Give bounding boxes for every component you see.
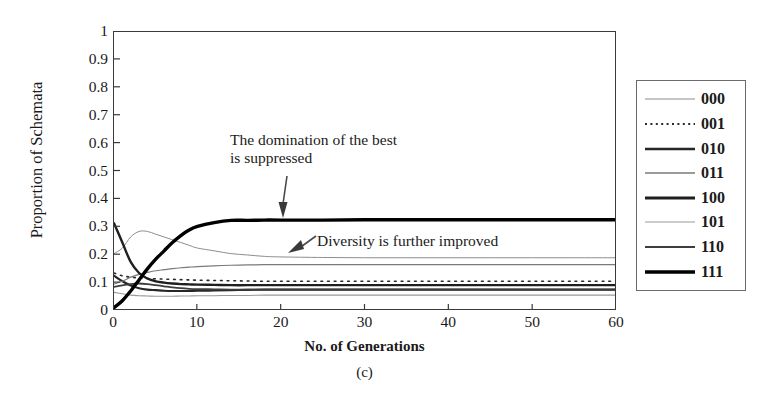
legend-swatch-icon: [644, 240, 696, 254]
legend-item-010[interactable]: 010: [637, 137, 745, 161]
legend-swatch-icon: [644, 265, 696, 279]
legend-label: 111: [701, 264, 723, 280]
y-axis-tick-labels: 00.10.20.30.40.50.60.70.80.91: [0, 0, 108, 394]
y-tick-label: 0.2: [89, 246, 108, 262]
legend-item-001[interactable]: 001: [637, 112, 745, 136]
legend-swatch-icon: [644, 92, 696, 106]
annotation-domination-arrow-icon: [274, 174, 298, 220]
y-tick-label: 0.8: [89, 79, 108, 95]
legend-label: 110: [701, 239, 724, 255]
y-tick-label: 0.3: [89, 218, 108, 234]
figure-caption: (c): [113, 364, 616, 381]
legend-swatch-icon: [644, 142, 696, 156]
y-tick-label: 0.7: [89, 107, 108, 123]
y-tick-label: 0.6: [89, 135, 108, 151]
x-tick-label: 50: [524, 314, 540, 330]
legend-label: 001: [701, 116, 725, 132]
x-axis-title: No. of Generations: [113, 338, 616, 355]
legend-label: 101: [701, 214, 725, 230]
y-tick-label: 0.4: [89, 190, 108, 206]
legend-swatch-icon: [644, 215, 696, 229]
legend-item-100[interactable]: 100: [637, 186, 745, 210]
x-tick-label: 60: [608, 314, 624, 330]
series-line-001: [114, 273, 615, 281]
legend-label: 010: [701, 141, 725, 157]
x-tick-label: 40: [441, 314, 457, 330]
legend-label: 100: [701, 190, 725, 206]
legend-item-110[interactable]: 110: [637, 235, 745, 259]
legend-label: 011: [701, 165, 724, 181]
y-tick-label: 0.1: [89, 274, 108, 290]
y-tick-label: 1: [100, 23, 108, 39]
series-line-101: [114, 292, 615, 296]
annotation-domination: The domination of the best is suppressed: [230, 131, 397, 168]
legend-swatch-icon: [644, 191, 696, 205]
annotation-diversity-arrow-icon: [288, 233, 318, 255]
y-tick-label: 0.5: [89, 163, 108, 179]
figure-container: Proportion of Schemata 00.10.20.30.40.50…: [0, 0, 777, 394]
legend-label: 000: [701, 91, 725, 107]
legend-swatch-icon: [644, 166, 696, 180]
x-axis-tick-labels: 0102030405060: [0, 314, 777, 334]
y-tick-label: 0.9: [89, 51, 108, 67]
x-tick-label: 10: [189, 314, 205, 330]
legend-item-011[interactable]: 011: [637, 161, 745, 185]
legend: 000001010011100101110111: [636, 80, 746, 291]
legend-item-000[interactable]: 000: [637, 87, 745, 111]
series-line-011: [114, 265, 615, 284]
x-tick-label: 0: [109, 314, 117, 330]
plot-svg: [114, 32, 615, 309]
x-tick-label: 20: [273, 314, 289, 330]
legend-swatch-icon: [644, 117, 696, 131]
legend-item-111[interactable]: 111: [637, 260, 745, 284]
plot-area: [113, 31, 616, 310]
x-tick-label: 30: [357, 314, 373, 330]
legend-item-101[interactable]: 101: [637, 210, 745, 234]
annotation-diversity: Diversity is further improved: [317, 232, 498, 250]
